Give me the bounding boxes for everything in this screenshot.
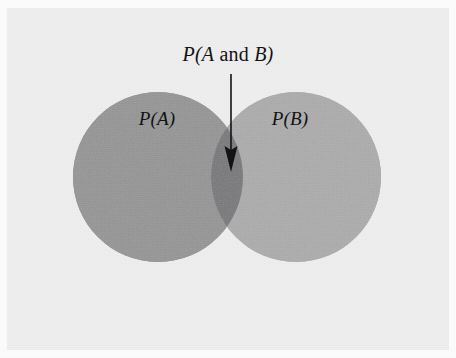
label-circle-a-prefix: P( xyxy=(139,108,157,129)
label-intersection-operator: and xyxy=(214,43,254,65)
label-circle-b-prefix: P( xyxy=(272,108,290,129)
label-circle-a: P(A) xyxy=(120,109,194,128)
label-circle-a-suffix: ) xyxy=(169,108,176,129)
label-intersection: P(A and B) xyxy=(0,44,456,64)
label-circle-b-suffix: ) xyxy=(302,108,309,129)
label-circle-a-operand: A xyxy=(157,108,169,129)
label-intersection-operand-b: B xyxy=(254,43,266,65)
label-circle-b-operand: B xyxy=(290,108,302,129)
label-intersection-operand-a: A xyxy=(202,43,214,65)
label-intersection-prefix: P( xyxy=(183,43,202,65)
label-circle-b: P(B) xyxy=(253,109,327,128)
label-intersection-suffix: ) xyxy=(267,43,274,65)
venn-diagram-figure: P(A and B) P(A) P(B) xyxy=(0,0,456,358)
